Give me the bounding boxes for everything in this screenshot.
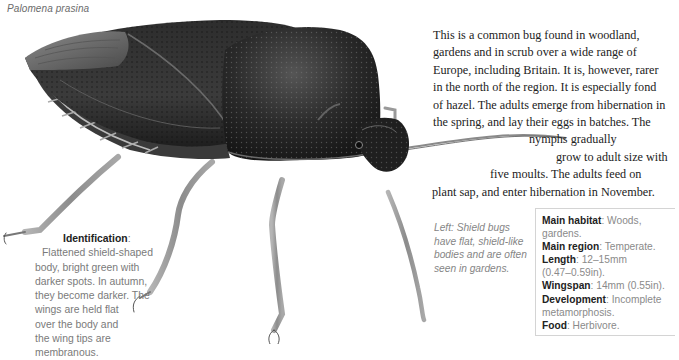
figure-caption: Left: Shield bugs have flat, shield-like…	[434, 221, 524, 275]
identification-line: they become darker. The	[5, 289, 165, 303]
caption-line: bodies and are often	[434, 248, 524, 262]
fact-box: Main habitat: Woods, gardens. Main regio…	[535, 208, 675, 336]
body-text-line: nymphs gradually	[433, 131, 679, 148]
head	[355, 118, 409, 172]
identification-block: Identification: Flattened shield-shaped …	[5, 232, 165, 360]
fact-wingspan: Wingspan: 14mm (0.55in).	[542, 279, 675, 292]
body-text-line: This is a common bug found in woodland,	[433, 27, 679, 44]
body-text-line: of hazel. The adults emerge from hiberna…	[433, 97, 679, 114]
identification-line: over the body and	[5, 318, 165, 332]
fact-value-continuation: (0.47–0.59in).	[542, 266, 675, 279]
identification-line: wings are held flat	[5, 303, 165, 317]
identification-line: darker spots. In autumn,	[5, 275, 165, 289]
body-text-line: in the north of the region. It is especi…	[433, 79, 679, 96]
identification-line: the wing tips are	[5, 332, 165, 346]
identification-line: body, bright green with	[5, 261, 165, 275]
body-text-line: the spring, and lay their eggs in batche…	[433, 114, 679, 131]
identification-line: Flattened shield-shaped	[5, 246, 165, 260]
body-text: This is a common bug found in woodland, …	[433, 27, 679, 201]
body-text-line: grow to adult size with	[433, 149, 679, 166]
fact-main-region: Main region: Temperate.	[542, 240, 675, 253]
body-text-line: plant sap, and enter hibernation in Nove…	[432, 184, 679, 201]
fact-length: Length: 12–15mm	[542, 253, 675, 266]
body-text-line: gardens and in scrub over a wide range o…	[433, 44, 679, 61]
body-text-line: Europe, including Britain. It is, howeve…	[433, 62, 679, 79]
fact-development: Development: Incomplete	[542, 293, 675, 306]
fact-food: Food: Herbivore.	[542, 319, 675, 332]
identification-heading: Identification	[63, 233, 128, 244]
caption-line: seen in gardens.	[434, 262, 524, 276]
fact-value-continuation: metamorphosis.	[542, 306, 675, 319]
identification-line: membranous.	[5, 346, 165, 360]
fact-main-habitat: Main habitat: Woods,	[542, 214, 675, 227]
fact-value-continuation: gardens.	[542, 227, 675, 240]
identification-separator: :	[128, 233, 131, 244]
caption-line: have flat, shield-like	[434, 235, 524, 249]
caption-line: Left: Shield bugs	[434, 221, 524, 235]
body-text-line: five moults. The adults feed on	[433, 166, 679, 183]
